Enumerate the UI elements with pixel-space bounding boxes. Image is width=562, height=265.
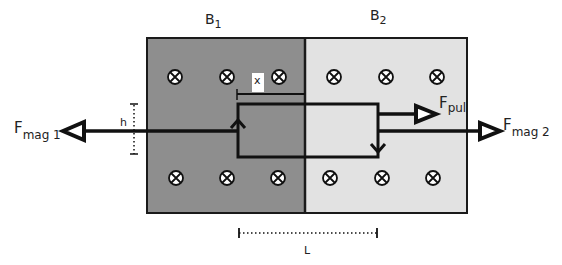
label-b2: B2 <box>370 7 387 27</box>
region-b2 <box>305 38 467 213</box>
fmag2-label: Fmag 2 <box>503 116 550 139</box>
dimension-l-label: L <box>304 244 311 257</box>
label-b1: B1 <box>205 11 222 31</box>
into-page-icon <box>379 70 393 84</box>
into-page-icon <box>323 171 337 185</box>
region-b1 <box>147 38 305 213</box>
into-page-icon <box>220 70 234 84</box>
dimension-h-label: h <box>120 116 127 129</box>
dimension-x-label: x <box>254 74 261 87</box>
into-page-icon <box>426 171 440 185</box>
into-page-icon <box>430 70 444 84</box>
magnetic-field-loop-diagram: B1 B2 x Fmag 1 Fpul Fmag 2 h <box>0 0 562 265</box>
into-page-icon <box>220 171 234 185</box>
fmag2-arrowhead-icon <box>480 123 500 139</box>
fmag1-arrowhead-icon <box>63 122 84 140</box>
into-page-icon <box>327 70 341 84</box>
into-page-icon <box>272 70 286 84</box>
into-page-icon <box>271 171 285 185</box>
fmag1-label: Fmag 1 <box>14 119 61 142</box>
into-page-icon <box>375 171 389 185</box>
into-page-icon <box>168 70 182 84</box>
into-page-icon <box>169 171 183 185</box>
